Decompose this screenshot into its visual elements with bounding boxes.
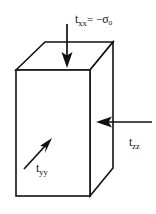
stress-block-figure: txx= −σo tzz tyy: [0, 0, 156, 214]
label-t-yy: tyy: [36, 159, 47, 176]
label-t-zz: tzz: [129, 133, 140, 150]
label-t-xx-operator: = −: [86, 13, 102, 25]
label-sigma-subscript: o: [109, 18, 113, 27]
block-diagram-canvas: [0, 0, 156, 214]
label-t-zz-subscript: zz: [132, 141, 139, 151]
label-t-yy-subscript: yy: [39, 167, 47, 177]
label-t-xx: txx= −σo: [75, 10, 112, 27]
block-front-face: [16, 70, 90, 196]
